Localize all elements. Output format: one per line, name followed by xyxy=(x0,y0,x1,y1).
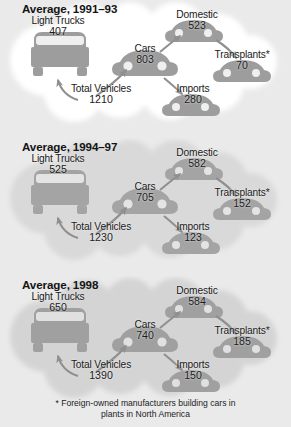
node-value: 1210 xyxy=(46,94,156,105)
panel-average-1991-93: Average, 1991–93 Light Trucks 407 Cars 8… xyxy=(0,0,291,142)
node-value: 740 xyxy=(116,330,174,341)
node-transplants: Transplants* 185 xyxy=(200,326,284,347)
node-total-vehicles: Total Vehicles 1230 xyxy=(46,222,156,243)
node-light-trucks: Light Trucks 525 xyxy=(18,154,98,175)
panel-title: Average, 1991–93 xyxy=(22,2,117,15)
node-value: 152 xyxy=(200,198,284,209)
node-light-trucks: Light Trucks 650 xyxy=(18,292,98,313)
node-value: 407 xyxy=(18,26,98,37)
node-value: 650 xyxy=(18,302,98,313)
panel-title: Average, 1994–97 xyxy=(22,140,117,153)
footnote-line-2: plants in North America xyxy=(0,409,291,420)
panel-average-1998: Average, 1998 Light Trucks 650 Cars 740 … xyxy=(0,276,291,418)
node-imports: Imports 150 xyxy=(163,360,223,381)
node-imports: Imports 123 xyxy=(163,222,223,243)
node-value: 523 xyxy=(166,20,228,31)
node-value: 525 xyxy=(18,164,98,175)
panel-title: Average, 1998 xyxy=(22,278,98,291)
vehicle-flow-diagram: Average, 1991–93 Light Trucks 407 Cars 8… xyxy=(0,0,291,427)
node-total-vehicles: Total Vehicles 1210 xyxy=(46,84,156,105)
node-cars: Cars 705 xyxy=(116,182,174,203)
node-value: 123 xyxy=(163,232,223,243)
node-value: 1390 xyxy=(46,370,156,381)
node-value: 185 xyxy=(200,336,284,347)
node-imports: Imports 280 xyxy=(163,84,223,105)
node-transplants: Transplants* 70 xyxy=(200,50,284,71)
node-value: 705 xyxy=(116,192,174,203)
node-transplants: Transplants* 152 xyxy=(200,188,284,209)
node-domestic: Domestic 584 xyxy=(166,286,228,307)
node-value: 803 xyxy=(116,54,174,65)
node-value: 584 xyxy=(166,296,228,307)
node-value: 150 xyxy=(163,370,223,381)
footnote: * Foreign-owned manufacturers building c… xyxy=(0,398,291,420)
node-light-trucks: Light Trucks 407 xyxy=(18,16,98,37)
node-domestic: Domestic 523 xyxy=(166,10,228,31)
panel-average-1994-97: Average, 1994–97 Light Trucks 525 Cars 7… xyxy=(0,138,291,280)
footnote-line-1: * Foreign-owned manufacturers building c… xyxy=(0,398,291,409)
node-domestic: Domestic 582 xyxy=(166,148,228,169)
node-value: 70 xyxy=(200,60,284,71)
node-value: 1230 xyxy=(46,232,156,243)
node-cars: Cars 803 xyxy=(116,44,174,65)
node-value: 582 xyxy=(166,158,228,169)
node-value: 280 xyxy=(163,94,223,105)
node-total-vehicles: Total Vehicles 1390 xyxy=(46,360,156,381)
node-cars: Cars 740 xyxy=(116,320,174,341)
